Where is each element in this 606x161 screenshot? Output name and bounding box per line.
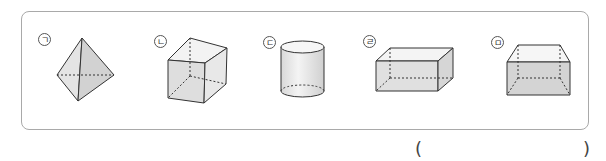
solid-figures	[0, 0, 606, 161]
cube-icon	[168, 38, 227, 103]
answer-open-paren: (	[415, 138, 422, 159]
rectangular-prism-icon	[376, 48, 453, 91]
cylinder-icon	[281, 41, 324, 97]
truncated-prism-icon	[507, 45, 570, 95]
triangular-pyramid-icon	[57, 38, 114, 101]
answer-blank[interactable]	[428, 140, 578, 158]
answer-close-paren: )	[583, 138, 590, 159]
